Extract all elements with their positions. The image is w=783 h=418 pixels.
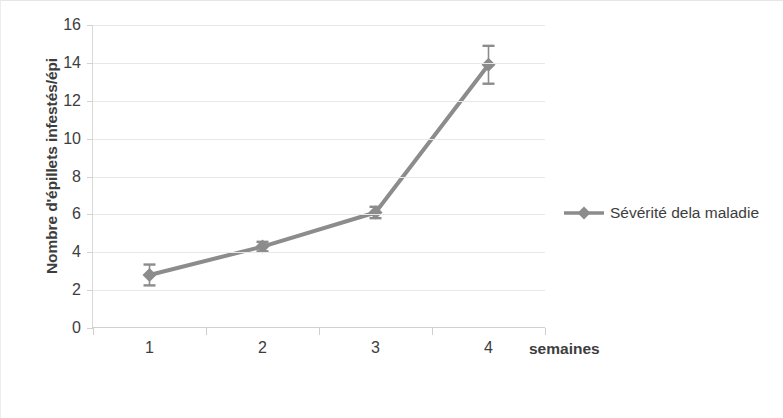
x-axis-tick-mark xyxy=(93,328,94,335)
y-axis-title: Nombre d'épillets infestés/épi xyxy=(15,0,51,1)
y-axis-tick-label: 16 xyxy=(47,16,81,34)
line-chart: Nombre d'épillets infestés/épi 024681012… xyxy=(0,0,783,418)
y-axis-tick-label: 8 xyxy=(47,168,81,186)
legend: Sévérité dela maladie xyxy=(564,204,759,222)
y-axis-tick-label: 2 xyxy=(47,281,81,299)
y-axis-tick-label: 12 xyxy=(47,92,81,110)
gridline xyxy=(93,63,545,64)
x-axis-tick-label: 4 xyxy=(469,339,509,357)
gridline xyxy=(93,214,545,215)
series-line xyxy=(150,65,489,275)
gridline xyxy=(93,290,545,291)
x-axis-tick-label: 2 xyxy=(243,339,283,357)
x-axis-tick-mark xyxy=(432,328,433,335)
y-axis-tick-label: 6 xyxy=(47,205,81,223)
y-axis-tick-mark xyxy=(87,214,93,215)
y-axis-tick-mark xyxy=(87,101,93,102)
y-axis-tick-mark xyxy=(87,63,93,64)
y-axis-tick-label: 0 xyxy=(47,319,81,337)
legend-line-marker-icon xyxy=(564,205,604,221)
x-axis-tick-mark xyxy=(545,328,546,335)
plot-area xyxy=(93,25,545,328)
y-axis-tick-mark xyxy=(87,290,93,291)
y-axis-tick-mark xyxy=(87,139,93,140)
x-axis-title-label: semaines xyxy=(529,340,600,358)
gridline xyxy=(93,139,545,140)
y-axis-tick-mark xyxy=(87,252,93,253)
y-axis-tick-mark xyxy=(87,177,93,178)
y-axis-tick-mark xyxy=(87,25,93,26)
y-axis-tick-label: 10 xyxy=(47,130,81,148)
data-point-marker xyxy=(143,268,157,282)
x-axis-tick-labels: 1234 xyxy=(93,339,545,365)
gridline xyxy=(93,252,545,253)
gridline xyxy=(93,177,545,178)
x-axis-tick-label: 1 xyxy=(130,339,170,357)
x-axis-tick-label: 3 xyxy=(356,339,396,357)
x-axis-tick-mark xyxy=(206,328,207,335)
gridline xyxy=(93,25,545,26)
gridline xyxy=(93,101,545,102)
y-axis-tick-labels: 0246810121416 xyxy=(47,1,81,418)
x-axis-tick-mark xyxy=(319,328,320,335)
y-axis-tick-label: 4 xyxy=(47,243,81,261)
legend-entry-label: Sévérité dela maladie xyxy=(610,204,759,222)
y-axis-tick-label: 14 xyxy=(47,54,81,72)
